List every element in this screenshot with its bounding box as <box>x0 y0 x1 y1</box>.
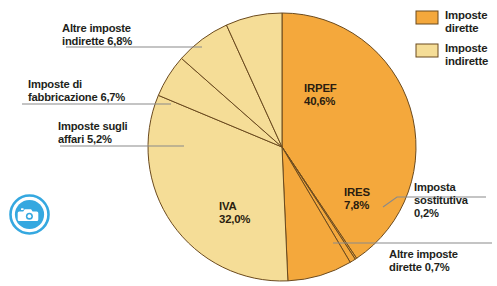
callout-altre-dirette-line1: Altre imposte <box>389 248 458 261</box>
callout-sostitutiva-line1: Imposta <box>414 181 468 194</box>
callout-altre-indirette-line2: indirette 6,8% <box>62 35 132 48</box>
callout-fabbricazione: Imposte di fabbricazione 6,7% <box>28 78 125 104</box>
slice-label-irpef-value: 40,6% <box>304 95 337 108</box>
legend-item-dirette-line1: Imposte <box>445 9 487 22</box>
slice-label-irpef-name: IRPEF <box>304 82 337 95</box>
slice-label-ires-name: IRES <box>344 186 370 199</box>
legend-swatches-group <box>416 11 438 57</box>
callout-fabbricazione-line2: fabbricazione 6,7% <box>28 91 125 104</box>
callout-altre-dirette-line2: dirette 0,7% <box>389 261 458 274</box>
camera-watermark <box>9 194 50 235</box>
slice-label-iva-name: IVA <box>219 200 250 213</box>
callout-affari-line1: Imposte sugli <box>58 120 128 133</box>
pie-slices-group <box>148 13 416 281</box>
callout-sostitutiva: Imposta sostitutiva 0,2% <box>414 181 468 219</box>
callout-altre-indirette-line1: Altre imposte <box>62 22 132 35</box>
slice-label-ires-value: 7,8% <box>344 199 370 212</box>
camera-icon <box>9 194 50 235</box>
pie-chart-figure: Altre imposte indirette 6,8% Imposte di … <box>0 0 497 286</box>
slice-label-ires: IRES 7,8% <box>344 186 370 212</box>
legend-swatch-dirette <box>416 11 438 24</box>
legend-item-indirette-line2: indirette <box>445 55 488 68</box>
callout-altre-indirette: Altre imposte indirette 6,8% <box>62 22 132 48</box>
callout-altre-dirette: Altre imposte dirette 0,7% <box>389 248 458 274</box>
callout-fabbricazione-line1: Imposte di <box>28 78 125 91</box>
legend-item-dirette: Imposte dirette <box>445 9 487 35</box>
legend-item-indirette-line1: Imposte <box>445 42 488 55</box>
legend-swatch-indirette <box>416 44 438 57</box>
legend-item-indirette: Imposte indirette <box>445 42 488 68</box>
callout-affari-line2: affari 5,2% <box>58 133 128 146</box>
callout-sostitutiva-line2: sostitutiva <box>414 194 468 207</box>
callout-affari: Imposte sugli affari 5,2% <box>58 120 128 146</box>
callout-sostitutiva-line3: 0,2% <box>414 207 468 220</box>
slice-label-irpef: IRPEF 40,6% <box>304 82 337 108</box>
legend-item-dirette-line2: dirette <box>445 22 487 35</box>
slice-label-iva: IVA 32,0% <box>219 200 250 226</box>
slice-label-iva-value: 32,0% <box>219 213 250 226</box>
